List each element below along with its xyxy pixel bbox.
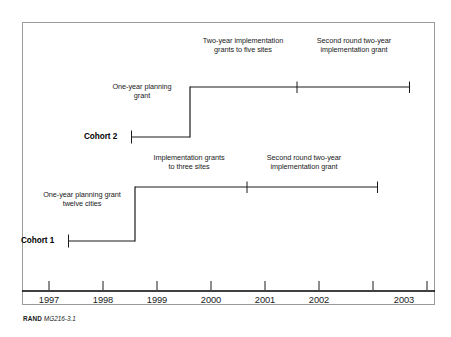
cohort2-planning-label: One-year planning grant	[98, 82, 186, 101]
axis-tick-label-2003: 2003	[384, 295, 424, 305]
timeline-plot: Two-year implementation grants to five s…	[0, 0, 451, 337]
figure-root: Two-year implementation grants to five s…	[0, 0, 451, 337]
cohort2-name-label: Cohort 2	[84, 132, 117, 141]
cohort1-planning-segment	[68, 235, 135, 248]
cohort1-second-round-label: Second round two-year implementation gra…	[248, 153, 360, 172]
cohort2-second-round-label: Second round two-year implementation gra…	[298, 36, 410, 55]
axis-tick-label-2002: 2002	[299, 295, 339, 305]
cohort1-planning-label: One-year planning grant twelve cities	[30, 190, 134, 209]
cohort2-implementation-segment	[190, 82, 410, 94]
credit-id: MG216-3.1	[44, 315, 76, 322]
time-axis	[22, 281, 435, 291]
cohort1-implementation-segment	[135, 182, 378, 194]
axis-tick-label-2001: 2001	[245, 295, 285, 305]
axis-ticks	[49, 281, 427, 290]
cohort2-planning-segment	[131, 131, 190, 144]
axis-tick-label-1998: 1998	[83, 295, 123, 305]
credit-org: RAND	[23, 315, 42, 322]
cohort1-name-label: Cohort 1	[21, 236, 54, 245]
cohort1-implementation-label: Implementation grants to three sites	[136, 153, 242, 172]
axis-tick-label-1999: 1999	[137, 295, 177, 305]
axis-tick-label-1997: 1997	[29, 295, 69, 305]
figure-credit: RAND MG216-3.1	[23, 315, 76, 322]
cohort2-implementation-label: Two-year implementation grants to five s…	[184, 36, 302, 55]
axis-tick-label-2000: 2000	[191, 295, 231, 305]
